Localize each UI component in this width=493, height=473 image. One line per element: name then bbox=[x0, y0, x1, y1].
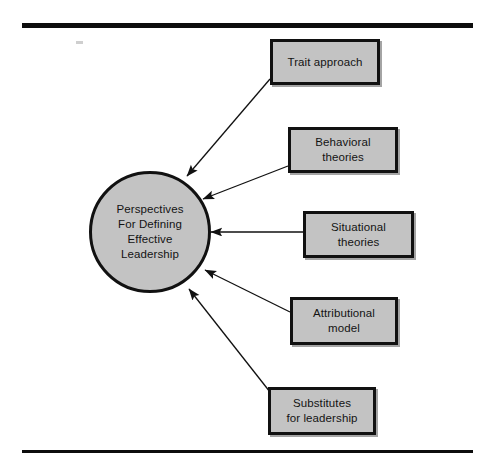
node-substitutes-for-leadership: Substitutes for leadership bbox=[268, 387, 376, 435]
center-node-perspectives: Perspectives For Defining Effective Lead… bbox=[89, 171, 211, 293]
node-attributional-model-label: Attributional model bbox=[313, 306, 375, 336]
diagram-canvas: Perspectives For Defining Effective Lead… bbox=[0, 0, 493, 473]
node-trait-approach-label: Trait approach bbox=[287, 55, 362, 70]
node-behavioral-theories-label: Behavioral theories bbox=[315, 135, 370, 165]
arrow-substitutes-for-leadership bbox=[189, 289, 270, 392]
node-behavioral-theories: Behavioral theories bbox=[288, 127, 398, 173]
node-substitutes-for-leadership-label: Substitutes for leadership bbox=[286, 396, 357, 426]
arrow-layer bbox=[0, 0, 493, 473]
arrow-behavioral-theories bbox=[203, 166, 288, 199]
arrow-trait-approach bbox=[187, 79, 270, 176]
node-situational-theories-label: Situational theories bbox=[331, 220, 386, 250]
arrow-attributional-model bbox=[205, 270, 290, 312]
node-trait-approach: Trait approach bbox=[270, 39, 380, 85]
bottom-horizontal-rule bbox=[22, 450, 473, 453]
center-node-label: Perspectives For Defining Effective Lead… bbox=[116, 202, 183, 262]
node-attributional-model: Attributional model bbox=[290, 297, 398, 345]
node-situational-theories: Situational theories bbox=[303, 211, 414, 258]
